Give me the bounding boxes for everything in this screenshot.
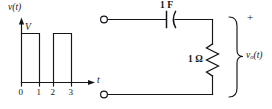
waveform-x-axis-label: t [97, 76, 100, 86]
waveform-tick-label-2: 2 [51, 88, 56, 97]
waveform-tick-label-3: 3 [69, 88, 74, 97]
resistor-zigzag [207, 44, 219, 76]
waveform-y-axis-arrow [19, 18, 24, 25]
input-terminal-top [101, 16, 108, 23]
waveform-tick-label-1: 1 [37, 88, 42, 97]
waveform-y-axis-label: v(t) [8, 3, 21, 13]
circuit-figure: v(t) t V 0 1 2 3 1 F 1 Ω + vo(t) [0, 0, 272, 109]
waveform-x-axis-arrow [88, 80, 95, 85]
waveform-pulse-2 [54, 34, 72, 83]
output-voltage-label: vo(t) [246, 51, 262, 61]
output-voltage-argument: (t) [253, 50, 262, 60]
output-polarity-plus: + [247, 12, 253, 23]
input-terminal-bottom [101, 91, 108, 98]
resistor-label: 1 Ω [188, 55, 203, 65]
output-brace [229, 17, 243, 97]
waveform-tick-label-0: 0 [19, 88, 24, 97]
capacitor-label: 1 F [160, 1, 173, 11]
waveform-amplitude-label: V [25, 23, 31, 33]
waveform-pulse-1 [22, 34, 40, 83]
